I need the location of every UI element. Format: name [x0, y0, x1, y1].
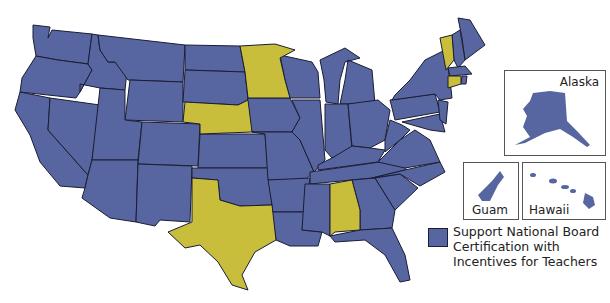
state-connecticut: [448, 76, 461, 88]
state-michigan: [320, 48, 375, 104]
hawaii-inset: Hawaii: [522, 162, 606, 220]
state-rhode-island: [461, 76, 467, 84]
state-new-york: [392, 50, 452, 100]
alaska-inset: Alaska: [504, 70, 606, 156]
state-new-mexico: [136, 164, 192, 226]
hawaii-label: Hawaii: [529, 203, 569, 217]
state-massachusetts: [448, 66, 472, 76]
legend-swatch: [428, 228, 448, 247]
state-kansas: [198, 134, 268, 168]
state-florida: [330, 228, 410, 282]
state-wyoming: [125, 80, 183, 122]
state-ohio: [348, 100, 390, 148]
state-arizona: [82, 160, 138, 222]
legend-label: Support National Board Certification wit…: [453, 224, 610, 269]
state-north-dakota: [185, 45, 245, 72]
state-colorado: [138, 122, 200, 166]
alaska-label: Alaska: [560, 75, 599, 89]
guam-inset: Guam: [463, 162, 519, 220]
state-iowa: [245, 98, 300, 132]
state-mississippi: [302, 184, 330, 236]
state-south-dakota: [183, 70, 248, 105]
guam-label: Guam: [472, 203, 508, 217]
